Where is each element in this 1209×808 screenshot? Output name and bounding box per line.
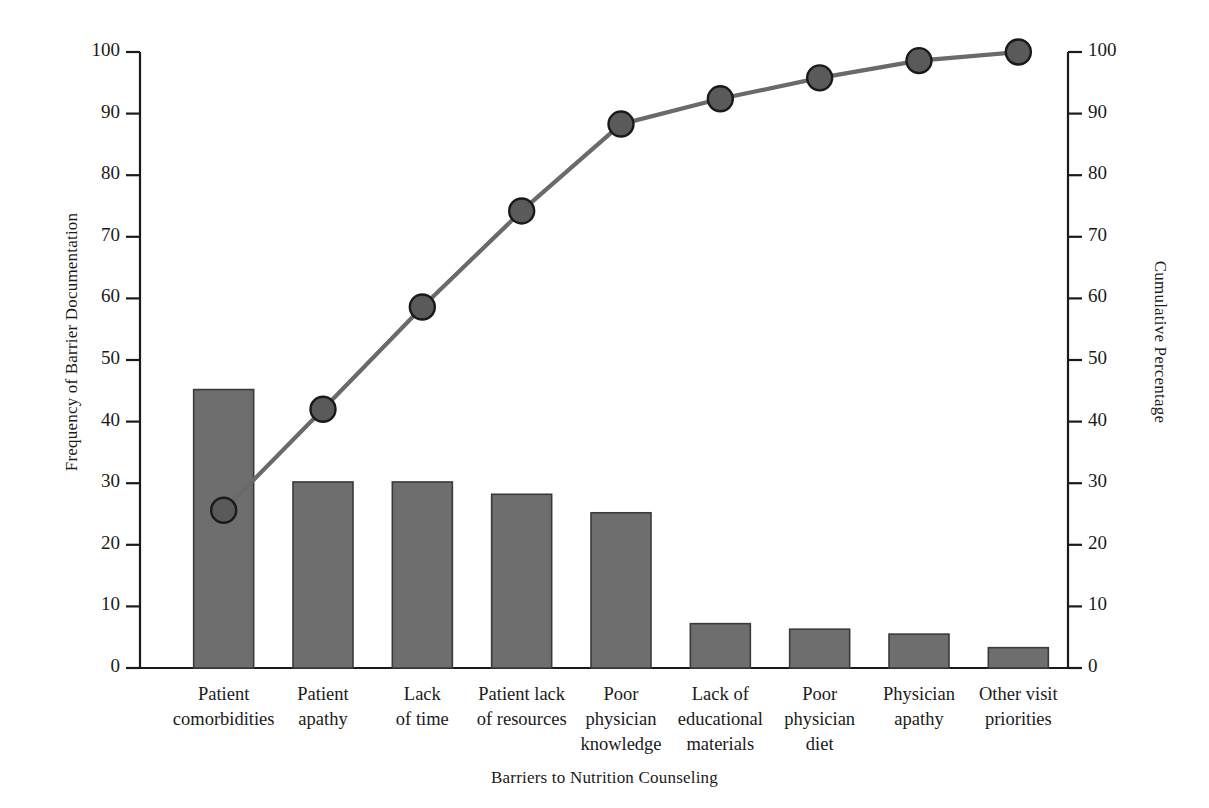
x-category-label-line: Patient lack xyxy=(466,682,577,707)
x-category-label: Poorphysiciandiet xyxy=(764,682,875,757)
x-category-label-line: Lack xyxy=(367,682,478,707)
x-category-label: Lackof time xyxy=(367,682,478,732)
x-category-label-line: materials xyxy=(665,732,776,757)
data-point-marker xyxy=(211,498,236,523)
data-point-marker xyxy=(311,397,336,422)
data-point-marker xyxy=(708,86,733,111)
x-category-label-line: knowledge xyxy=(565,732,676,757)
y-tick-label-left: 70 xyxy=(64,224,120,246)
y-tick-label-right: 70 xyxy=(1088,224,1144,246)
y-tick-label-right: 60 xyxy=(1088,285,1144,307)
y-tick-label-right: 90 xyxy=(1088,101,1144,123)
y-tick-label-left: 30 xyxy=(64,470,120,492)
x-category-label: Patientcomorbidities xyxy=(168,682,279,732)
y-tick-label-left: 20 xyxy=(64,532,120,554)
x-category-label-line: educational xyxy=(665,707,776,732)
x-category-label-line: Poor xyxy=(565,682,676,707)
x-category-label-line: apathy xyxy=(863,707,974,732)
x-category-label-line: of resources xyxy=(466,707,577,732)
y-tick-label-left: 50 xyxy=(64,347,120,369)
x-category-label: Patientapathy xyxy=(267,682,378,732)
bar xyxy=(293,482,353,668)
y-tick-label-right: 0 xyxy=(1088,655,1144,677)
data-point-marker xyxy=(907,48,932,73)
pareto-chart: Frequency of Barrier Documentation Cumul… xyxy=(0,0,1209,808)
x-category-label: Physicianapathy xyxy=(863,682,974,732)
y-tick-label-right: 40 xyxy=(1088,409,1144,431)
x-category-label-line: Other visit xyxy=(963,682,1074,707)
y-tick-label-left: 10 xyxy=(64,593,120,615)
y-tick-label-left: 100 xyxy=(64,39,120,61)
x-category-label-line: Patient xyxy=(267,682,378,707)
bar xyxy=(591,513,651,668)
bar-series xyxy=(194,390,1049,668)
data-point-marker xyxy=(509,198,534,223)
bar xyxy=(790,629,850,668)
data-point-marker xyxy=(609,112,634,137)
y-tick-label-left: 90 xyxy=(64,101,120,123)
y-tick-label-right: 100 xyxy=(1088,39,1144,61)
x-category-label: Patient lackof resources xyxy=(466,682,577,732)
x-category-label-line: priorities xyxy=(963,707,1074,732)
y-tick-label-right: 80 xyxy=(1088,162,1144,184)
y-tick-label-right: 20 xyxy=(1088,532,1144,554)
y-tick-label-left: 60 xyxy=(64,285,120,307)
data-point-marker xyxy=(1006,40,1031,65)
x-category-label-line: Patient xyxy=(168,682,279,707)
x-category-label-line: of time xyxy=(367,707,478,732)
data-point-marker xyxy=(410,295,435,320)
y-tick-label-left: 80 xyxy=(64,162,120,184)
y-tick-label-left: 0 xyxy=(64,655,120,677)
x-category-label: Lack ofeducationalmaterials xyxy=(665,682,776,757)
x-category-label-line: Physician xyxy=(863,682,974,707)
data-point-marker xyxy=(807,65,832,90)
bar xyxy=(392,482,452,668)
x-category-label-line: physician xyxy=(565,707,676,732)
x-category-label-line: Poor xyxy=(764,682,875,707)
y-tick-label-right: 50 xyxy=(1088,347,1144,369)
cumulative-markers xyxy=(211,40,1031,523)
x-category-label-line: apathy xyxy=(267,707,378,732)
bar xyxy=(492,494,552,668)
x-category-label-line: diet xyxy=(764,732,875,757)
bar xyxy=(194,390,254,668)
x-category-label-line: comorbidities xyxy=(168,707,279,732)
bar xyxy=(690,624,750,668)
y-tick-label-right: 10 xyxy=(1088,593,1144,615)
x-category-label: Poorphysicianknowledge xyxy=(565,682,676,757)
y-tick-label-right: 30 xyxy=(1088,470,1144,492)
x-category-label: Other visitpriorities xyxy=(963,682,1074,732)
bar xyxy=(889,634,949,668)
x-category-label-line: Lack of xyxy=(665,682,776,707)
y-tick-label-left: 40 xyxy=(64,409,120,431)
bar xyxy=(988,648,1048,668)
x-category-label-line: physician xyxy=(764,707,875,732)
